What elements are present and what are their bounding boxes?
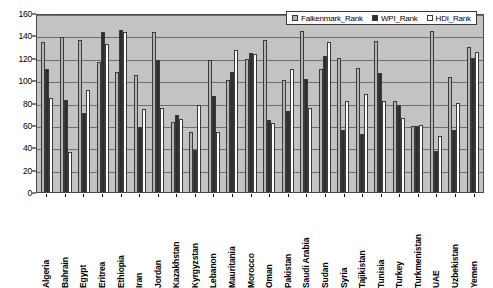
x-axis-label-cell: Yemen xyxy=(464,194,483,288)
bar-group xyxy=(353,15,372,192)
x-axis-tick-label: Turkey xyxy=(394,198,404,288)
bar-group xyxy=(75,15,94,192)
x-axis-tick-label: Egypt xyxy=(78,198,88,288)
bar xyxy=(419,125,423,192)
y-axis-tick-label: 140 xyxy=(18,31,32,41)
bar xyxy=(382,101,386,192)
x-axis-tick-mark xyxy=(195,194,196,197)
legend-label: WPI_Rank xyxy=(381,14,418,23)
y-axis-tick-label: 60 xyxy=(23,121,32,131)
y-axis-tick-label: 80 xyxy=(23,99,32,109)
x-axis-tick-mark xyxy=(139,194,140,197)
bar xyxy=(401,118,405,192)
x-axis-tick-mark xyxy=(121,194,122,197)
x-axis-tick-mark xyxy=(102,194,103,197)
x-axis-tick-label: Algeria xyxy=(41,198,51,288)
x-axis-tick-label: Kazakhstan xyxy=(171,198,181,288)
bar-group xyxy=(149,15,168,192)
x-axis-label-cell: Syria xyxy=(334,194,353,288)
x-axis-tick-mark xyxy=(83,194,84,197)
x-axis-label-cell: Jordan xyxy=(148,194,167,288)
bar xyxy=(364,94,368,192)
legend-swatch-icon xyxy=(292,15,298,21)
x-axis-tick-label: Eritrea xyxy=(97,198,107,288)
bar xyxy=(345,101,349,192)
bar-group xyxy=(242,15,261,192)
x-axis-label-cell: Kyrgyzstan xyxy=(186,194,205,288)
y-axis-tick-label: 160 xyxy=(18,9,32,19)
x-axis-tick-label: Mauritania xyxy=(227,198,237,288)
bar-group xyxy=(371,15,390,192)
x-axis-tick-mark xyxy=(381,194,382,197)
bar xyxy=(105,44,109,192)
x-axis-tick-label: Jordan xyxy=(153,198,163,288)
x-axis-tick-mark xyxy=(399,194,400,197)
x-axis: AlgeriaBahrainEgyptEritreaEthiopiaIranJo… xyxy=(36,194,484,288)
bar-group xyxy=(112,15,131,192)
bar xyxy=(253,54,257,192)
bar-group xyxy=(205,15,224,192)
bar-group xyxy=(279,15,298,192)
x-axis-tick-label: Tunisia xyxy=(376,198,386,288)
bar xyxy=(49,98,53,192)
bar-group xyxy=(316,15,335,192)
x-axis-tick-mark xyxy=(213,194,214,197)
bar-group xyxy=(297,15,316,192)
x-axis-tick-label: Syria xyxy=(339,198,349,288)
x-axis-tick-label: Turkmenistan xyxy=(413,198,423,288)
y-axis-tick-label: 20 xyxy=(23,166,32,176)
x-axis-tick-mark xyxy=(436,194,437,197)
x-axis-label-cell: Turkmenistan xyxy=(409,194,428,288)
bar-group xyxy=(186,15,205,192)
x-axis-tick-label: Ethiopia xyxy=(116,198,126,288)
bar xyxy=(86,90,90,192)
x-axis-label-cell: Uzbekistan xyxy=(446,194,465,288)
x-axis-tick-mark xyxy=(474,194,475,197)
x-axis-label-cell: Morocco xyxy=(241,194,260,288)
y-axis-tick-label: 120 xyxy=(18,54,32,64)
bar xyxy=(123,32,127,192)
bar-group xyxy=(223,15,242,192)
bar xyxy=(197,105,201,192)
x-axis-tick-label: Sudan xyxy=(320,198,330,288)
bar-group xyxy=(131,15,150,192)
x-axis-tick-mark xyxy=(46,194,47,197)
y-axis: 020406080100120140160 xyxy=(0,14,36,193)
legend-swatch-icon xyxy=(372,15,378,21)
bar xyxy=(160,108,164,192)
x-axis-tick-mark xyxy=(65,194,66,197)
x-axis-label-cell: Egypt xyxy=(74,194,93,288)
x-axis-tick-mark xyxy=(418,194,419,197)
x-axis-tick-label: Kyrgyzstan xyxy=(190,198,200,288)
bar xyxy=(456,103,460,193)
x-axis-tick-mark xyxy=(232,194,233,197)
bar-group xyxy=(260,15,279,192)
x-axis-tick-mark xyxy=(455,194,456,197)
x-axis-label-cell: UAE xyxy=(427,194,446,288)
bar-group xyxy=(464,15,483,192)
x-axis-label-cell: Iran xyxy=(130,194,149,288)
x-axis-label-cell: Eritrea xyxy=(93,194,112,288)
x-axis-tick-mark xyxy=(344,194,345,197)
x-axis-label-cell: Turkey xyxy=(390,194,409,288)
x-axis-tick-label: Oman xyxy=(264,198,274,288)
legend-entry: HDI_Rank xyxy=(427,14,471,23)
bar xyxy=(234,50,238,192)
bar xyxy=(216,132,220,192)
x-axis-label-cell: Tunisia xyxy=(371,194,390,288)
bar-chart: 020406080100120140160 AlgeriaBahrainEgyp… xyxy=(0,0,493,288)
x-axis-label-cell: Oman xyxy=(260,194,279,288)
bar-group xyxy=(57,15,76,192)
x-axis-label-cell: Kazakhstan xyxy=(167,194,186,288)
x-axis-label-cell: Ethiopia xyxy=(111,194,130,288)
x-axis-tick-label: Saudi Arabia xyxy=(301,198,311,288)
x-axis-tick-mark xyxy=(176,194,177,197)
bar-group xyxy=(38,15,57,192)
x-axis-label-cell: Lebanon xyxy=(204,194,223,288)
x-axis-tick-mark xyxy=(288,194,289,197)
x-axis-tick-label: Iran xyxy=(134,198,144,288)
y-axis-tick-label: 100 xyxy=(18,76,32,86)
bar-group xyxy=(94,15,113,192)
x-axis-tick-label: Bahrain xyxy=(60,198,70,288)
bar xyxy=(142,109,146,192)
